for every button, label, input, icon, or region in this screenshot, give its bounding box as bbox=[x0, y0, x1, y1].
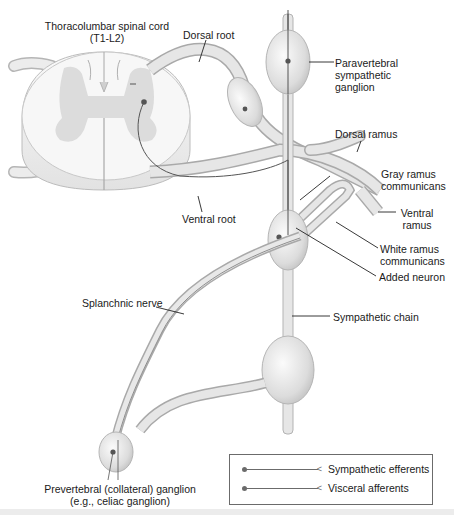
legend-label-afferents: Visceral afferents bbox=[328, 482, 409, 494]
afferent-line-icon: < bbox=[244, 488, 318, 489]
label-white-ramus: White ramus communicans bbox=[380, 243, 445, 267]
terminal-fork-icon: < bbox=[317, 484, 322, 493]
legend: < Sympathetic efferents < Visceral affer… bbox=[229, 454, 433, 505]
label-gray-ramus: Gray ramus communicans bbox=[381, 168, 446, 192]
label-white-ramus-line1: White ramus bbox=[380, 243, 445, 255]
label-paravertebral-line1: Paravertebral bbox=[335, 57, 398, 69]
label-spinal-cord: Thoracolumbar spinal cord (T1-L2) bbox=[42, 20, 172, 44]
label-ventral-root: Ventral root bbox=[182, 213, 236, 225]
legend-item-visceral-afferents: < Visceral afferents bbox=[244, 482, 409, 494]
bottom-border bbox=[0, 509, 454, 515]
label-prevertebral-line2: (e.g., celiac ganglion) bbox=[20, 495, 220, 507]
label-paravertebral-line2: sympathetic bbox=[335, 69, 398, 81]
label-gray-ramus-line2: communicans bbox=[381, 180, 446, 192]
label-splanchnic-nerve: Splanchnic nerve bbox=[82, 297, 163, 309]
label-ventral-ramus: Ventral ramus bbox=[395, 207, 439, 231]
label-white-ramus-line2: communicans bbox=[380, 255, 445, 267]
label-spinal-cord-line1: Thoracolumbar spinal cord bbox=[42, 20, 172, 32]
legend-item-sympathetic-efferents: < Sympathetic efferents bbox=[244, 463, 429, 475]
prevertebral-connector bbox=[140, 383, 265, 430]
label-gray-ramus-line1: Gray ramus bbox=[381, 168, 446, 180]
terminal-fork-icon: < bbox=[317, 465, 322, 474]
sympathetic-chain bbox=[262, 10, 314, 434]
label-added-neuron: Added neuron bbox=[379, 271, 445, 283]
label-dorsal-ramus: Dorsal ramus bbox=[335, 128, 397, 140]
prevertebral-ganglion bbox=[99, 432, 133, 480]
label-spinal-cord-line2: (T1-L2) bbox=[42, 32, 172, 44]
label-ventral-ramus-line2: ramus bbox=[395, 219, 439, 231]
label-ventral-ramus-line1: Ventral bbox=[395, 207, 439, 219]
label-paravertebral-ganglion: Paravertebral sympathetic ganglion bbox=[335, 57, 398, 93]
label-prevertebral-line1: Prevertebral (collateral) ganglion bbox=[20, 483, 220, 495]
efferent-line-icon: < bbox=[244, 469, 318, 470]
soma-dot-icon bbox=[242, 486, 247, 491]
label-sympathetic-chain: Sympathetic chain bbox=[333, 311, 419, 323]
splanchnic-nerve bbox=[115, 236, 300, 442]
sympathetic-diagram: Thoracolumbar spinal cord (T1-L2) Dorsal… bbox=[0, 0, 454, 515]
soma-dot-icon bbox=[242, 467, 247, 472]
label-prevertebral-ganglion: Prevertebral (collateral) ganglion (e.g.… bbox=[20, 483, 220, 507]
label-paravertebral-line3: ganglion bbox=[335, 81, 398, 93]
legend-label-efferents: Sympathetic efferents bbox=[328, 463, 429, 475]
label-dorsal-root: Dorsal root bbox=[183, 29, 234, 41]
